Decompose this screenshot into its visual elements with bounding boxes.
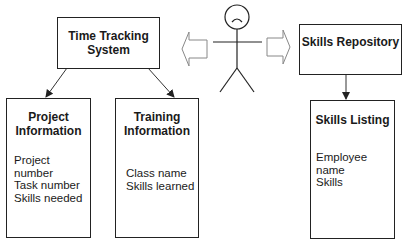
training-information-fields: Class name Skills learned [116,167,198,192]
arrow-time-to-project [46,68,67,97]
time-tracking-title-line1: Time Tracking [58,29,159,43]
training-information-title-line1: Training [116,110,198,124]
skills-listing-title: Skills Listing [311,113,394,127]
block-arrow-right-icon [267,30,290,64]
skills-listing-fields: Employee name Skills [311,151,394,189]
time-tracking-system-box: Time Tracking System [57,17,160,69]
field-item: Project number [14,154,90,179]
time-tracking-title-line2: System [58,43,159,57]
skills-repository-box: Skills Repository [299,24,402,75]
project-information-box: Project Information Project number Task … [6,98,91,238]
project-information-title-line1: Project [7,110,90,124]
stick-figure-icon [213,5,262,92]
block-arrow-left-icon [182,32,207,66]
project-information-title-line2: Information [7,124,90,138]
field-item: Skills [316,176,394,189]
training-information-box: Training Information Class name Skills l… [115,98,199,238]
skills-repository-title: Skills Repository [300,35,401,49]
skills-listing-box: Skills Listing Employee name Skills [310,100,395,239]
arrow-time-to-training [148,68,174,97]
field-item: Skills learned [126,180,198,193]
field-item: Skills needed [14,192,90,205]
field-item: Employee name [316,151,394,176]
field-item: Class name [126,167,198,180]
project-information-fields: Project number Task number Skills needed [7,154,90,204]
training-information-title-line2: Information [116,124,198,138]
field-item: Task number [14,179,90,192]
